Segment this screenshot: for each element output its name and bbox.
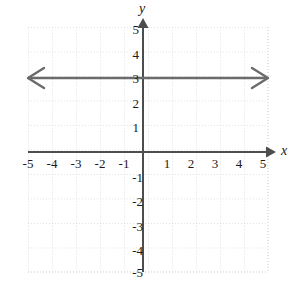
y-tick-label: -1 — [132, 170, 143, 183]
x-tick-label: -5 — [23, 157, 34, 170]
y-tick-label: 5 — [133, 23, 140, 36]
x-tick-label: 4 — [236, 157, 243, 170]
y-tick-label: -4 — [132, 244, 143, 257]
x-tick-label: 3 — [212, 157, 219, 170]
x-tick-label: -1 — [119, 157, 130, 170]
x-tick-label: -3 — [71, 157, 82, 170]
x-tick-label: -2 — [95, 157, 106, 170]
x-tick-label: 1 — [164, 157, 171, 170]
x-axis-label: x — [281, 144, 287, 158]
y-tick-label: 4 — [133, 47, 140, 60]
plot-area — [0, 0, 294, 294]
y-tick-label: -2 — [132, 195, 143, 208]
y-tick-label: 2 — [133, 96, 140, 109]
y-tick-label: 1 — [133, 121, 140, 134]
y-axis-label: y — [139, 2, 145, 16]
grid-lines — [28, 27, 268, 272]
x-tick-label: -4 — [47, 157, 58, 170]
y-tick-label: -3 — [132, 219, 143, 232]
y-tick-label: -5 — [132, 266, 143, 279]
x-tick-label: 5 — [260, 157, 267, 170]
x-tick-label: 2 — [188, 157, 195, 170]
y-tick-label: 3 — [133, 72, 140, 85]
coordinate-plane-figure: x y -5 -4 -3 -2 -1 1 2 3 4 5 5 4 3 2 1 -… — [0, 0, 294, 294]
